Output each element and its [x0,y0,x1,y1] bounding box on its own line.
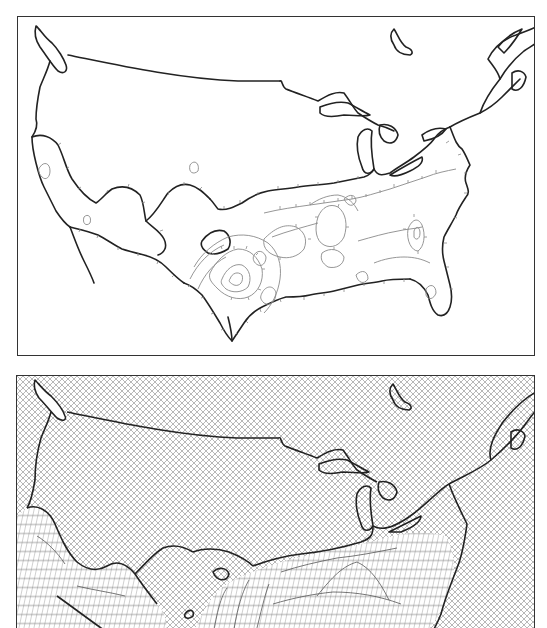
figure [0,0,547,628]
contour-map [18,17,535,356]
wireframe-surface-panel [16,375,535,628]
contour-map-panel [17,16,535,356]
wireframe-surface-map [17,376,535,628]
coastline-and-borders [32,26,535,341]
